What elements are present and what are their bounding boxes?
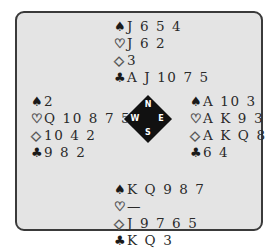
west-clubs: ♣9 8 2: [31, 144, 147, 161]
diamond-icon: ◇: [190, 127, 203, 144]
north-hearts: ♡J 6 2: [114, 35, 210, 52]
east-hearts: ♡A K 9 3: [190, 110, 267, 127]
south-spades: ♠K Q 9 8 7: [114, 181, 206, 198]
north-clubs: ♣A J 10 7 5: [114, 69, 210, 86]
spade-icon: ♠: [31, 93, 44, 110]
compass-rose-icon: N W E S: [125, 96, 171, 142]
south-clubs: ♣K Q 3: [114, 232, 206, 249]
south-diamonds: ◇J 9 7 6 5: [114, 215, 206, 232]
heart-icon: ♡: [114, 198, 127, 215]
heart-icon: ♡: [190, 110, 203, 127]
diamond-icon: ◇: [114, 52, 127, 69]
club-icon: ♣: [114, 232, 127, 249]
spade-icon: ♠: [114, 181, 127, 198]
east-diamonds: ◇A K Q 8: [190, 127, 267, 144]
club-icon: ♣: [31, 144, 44, 161]
east-spades: ♠A 10 3: [190, 93, 267, 110]
south-hearts: ♡—: [114, 198, 206, 215]
north-hand: ♠J 6 5 4 ♡J 6 2 ◇3 ♣A J 10 7 5: [114, 18, 210, 86]
north-spades: ♠J 6 5 4: [114, 18, 210, 35]
club-icon: ♣: [114, 69, 127, 86]
compass-north-label: N: [143, 100, 153, 110]
compass-south-label: S: [143, 128, 153, 138]
heart-icon: ♡: [31, 110, 44, 127]
compass-east-label: E: [156, 114, 166, 124]
east-clubs: ♣6 4: [190, 144, 267, 161]
spade-icon: ♠: [190, 93, 203, 110]
east-hand: ♠A 10 3 ♡A K 9 3 ◇A K Q 8 ♣6 4: [190, 93, 267, 161]
diamond-icon: ◇: [114, 215, 127, 232]
compass-west-label: W: [130, 114, 140, 124]
north-diamonds: ◇3: [114, 52, 210, 69]
heart-icon: ♡: [114, 35, 127, 52]
diamond-icon: ◇: [31, 127, 44, 144]
south-hand: ♠K Q 9 8 7 ♡— ◇J 9 7 6 5 ♣K Q 3: [114, 181, 206, 249]
spade-icon: ♠: [114, 18, 127, 35]
club-icon: ♣: [190, 144, 203, 161]
